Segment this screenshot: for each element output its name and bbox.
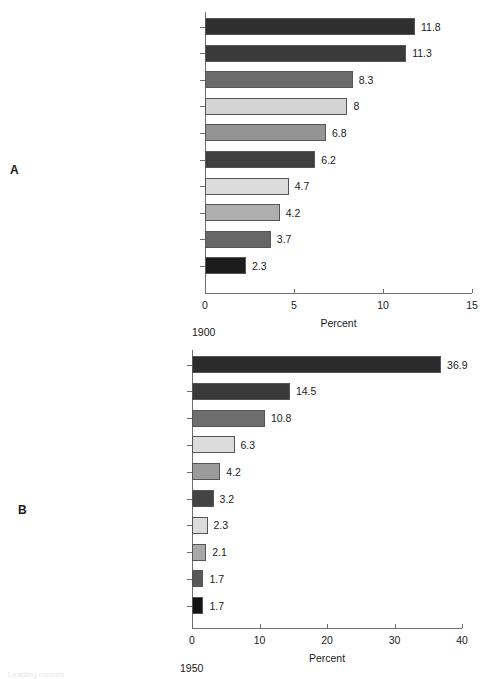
x-axis-line-b: [192, 628, 462, 629]
x-tick-15: [472, 289, 473, 293]
bar: [205, 178, 289, 195]
bar: [192, 410, 265, 427]
bar-value-label: 11.3: [412, 47, 432, 59]
bar: [205, 204, 280, 221]
bar: [192, 490, 214, 507]
bar: [205, 151, 315, 168]
bar-value-label: 6.3: [241, 439, 256, 451]
bar: [205, 71, 353, 88]
panel-caption-year: 1950: [180, 662, 203, 674]
bar: [192, 383, 290, 400]
bar-value-label: 4.2: [286, 207, 301, 219]
bar-value-label: 8: [353, 100, 359, 112]
x-tick-10: [260, 624, 261, 628]
cut-off-footer-text: Leading causes: [8, 670, 64, 679]
x-tick-0: [192, 624, 193, 628]
x-tick-30: [395, 624, 396, 628]
bar: [205, 231, 271, 248]
panel-a-1900: A 051015Pneumonia and influenza11.8Tuber…: [0, 0, 483, 340]
x-tick-10: [383, 289, 384, 293]
bar-value-label: 1.7: [209, 600, 224, 612]
panel-b-1950: B 010203040Disease of the heart36.9Malig…: [0, 340, 483, 679]
x-tick-label-0: 0: [202, 299, 208, 311]
bar: [192, 517, 208, 534]
x-tick-20: [327, 624, 328, 628]
bar: [205, 124, 326, 141]
x-tick-label-15: 15: [466, 299, 478, 311]
bar-value-label: 2.3: [252, 260, 267, 272]
bar-value-label: 3.2: [220, 493, 235, 505]
bar-value-label: 4.7: [295, 180, 310, 192]
x-axis-title: Percent: [320, 317, 356, 329]
x-tick-label-40: 40: [456, 634, 468, 646]
bar-value-label: 36.9: [447, 359, 467, 371]
x-tick-0: [205, 289, 206, 293]
bar-value-label: 3.7: [277, 233, 292, 245]
bar-value-label: 4.2: [226, 466, 241, 478]
bar: [205, 257, 246, 274]
bar-value-label: 11.8: [421, 21, 441, 33]
panel-letter-a: A: [10, 163, 19, 177]
x-axis-line-a: [205, 293, 472, 294]
x-tick-label-20: 20: [321, 634, 333, 646]
bar-value-label: 1.7: [209, 573, 224, 585]
x-tick-label-30: 30: [389, 634, 401, 646]
x-tick-5: [294, 289, 295, 293]
bar: [192, 544, 206, 561]
bar-value-label: 8.3: [359, 74, 374, 86]
x-tick-label-10: 10: [254, 634, 266, 646]
bar: [192, 356, 441, 373]
panel-letter-b: B: [18, 503, 27, 517]
bar: [192, 570, 203, 587]
bar: [205, 98, 347, 115]
x-tick-label-10: 10: [377, 299, 389, 311]
bar: [205, 45, 406, 62]
x-axis-title: Percent: [309, 652, 345, 664]
bar: [205, 18, 415, 35]
x-tick-label-0: 0: [189, 634, 195, 646]
bar: [192, 463, 220, 480]
x-tick-40: [462, 624, 463, 628]
x-tick-label-5: 5: [291, 299, 297, 311]
bar-value-label: 6.2: [321, 154, 336, 166]
panel-caption-year: 1900: [192, 326, 215, 338]
bar-value-label: 2.1: [212, 546, 227, 558]
bar-value-label: 14.5: [296, 385, 316, 397]
bar-value-label: 6.8: [332, 127, 347, 139]
bar: [192, 597, 203, 614]
bar-value-label: 10.8: [271, 412, 291, 424]
bar: [192, 436, 235, 453]
bar-value-label: 2.3: [214, 519, 229, 531]
